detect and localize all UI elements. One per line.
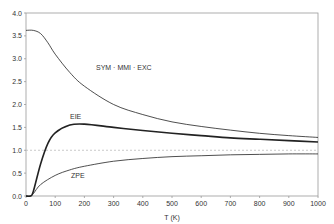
y-tick-label: 2.0: [12, 101, 22, 108]
x-tick-label: 400: [137, 200, 149, 207]
y-tick-label: 3.5: [12, 32, 22, 39]
y-axis: 0.00.51.01.52.02.53.03.54.0: [12, 10, 26, 200]
x-tick-label: 500: [166, 200, 178, 207]
y-tick-label: 0.5: [12, 170, 22, 177]
y-tick-label: 4.0: [12, 10, 22, 17]
y-tick-label: 2.5: [12, 78, 22, 85]
y-tick-label: 0.0: [12, 193, 22, 200]
plot-area: [26, 13, 318, 196]
x-tick-label: 100: [49, 200, 61, 207]
line-chart: 0.00.51.01.52.02.53.03.54.0 010020030040…: [0, 0, 334, 224]
y-tick-label: 1.0: [12, 147, 22, 154]
x-axis: 01002003004005006007008009001000: [24, 196, 326, 207]
x-tick-label: 300: [108, 200, 120, 207]
x-tick-label: 0: [24, 200, 28, 207]
x-tick-label: 800: [254, 200, 266, 207]
series-line: [26, 30, 318, 137]
label-sym: SYM · MMI · EXC: [96, 64, 152, 71]
x-axis-label: T (K): [164, 214, 179, 222]
label-eie: EIE: [70, 113, 82, 120]
x-tick-label: 700: [225, 200, 237, 207]
label-zpe: ZPE: [71, 172, 85, 179]
x-tick-label: 1000: [310, 200, 326, 207]
x-tick-label: 900: [283, 200, 295, 207]
x-tick-label: 600: [195, 200, 207, 207]
y-tick-label: 1.5: [12, 124, 22, 131]
y-tick-label: 3.0: [12, 55, 22, 62]
series-line: [26, 154, 318, 196]
x-tick-label: 200: [79, 200, 91, 207]
